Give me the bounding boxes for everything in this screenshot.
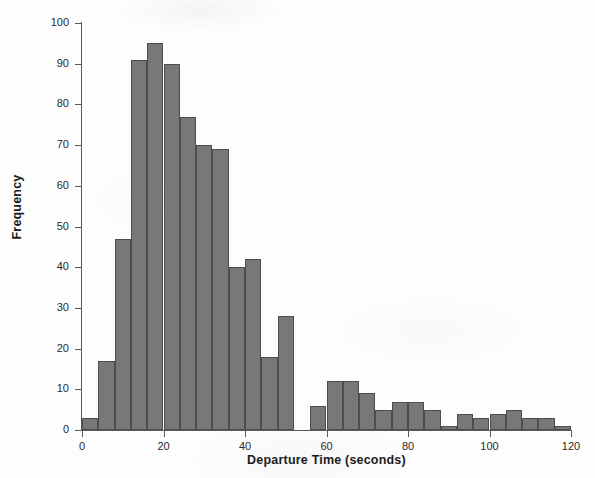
- x-axis-tick-label: 40: [225, 440, 265, 452]
- x-axis-tick: [164, 431, 165, 437]
- histogram-bar: [457, 414, 473, 430]
- histogram-bar: [522, 418, 538, 430]
- x-axis-tick: [82, 431, 83, 437]
- y-axis-tick: [75, 430, 81, 431]
- histogram-bar: [82, 418, 98, 430]
- y-axis-tick: [75, 23, 81, 24]
- y-axis-tick-label: 20: [29, 343, 69, 354]
- y-axis-line: [81, 22, 82, 431]
- x-axis-tick-label: 120: [551, 440, 591, 452]
- histogram-bar: [229, 267, 245, 430]
- histogram-bar: [98, 361, 114, 430]
- y-axis-tick: [75, 267, 81, 268]
- y-axis-tick: [75, 227, 81, 228]
- histogram-figure: 0102030405060708090100 020406080100120 D…: [0, 0, 595, 478]
- histogram-bar: [245, 259, 261, 430]
- histogram-bar: [164, 64, 180, 430]
- histogram-bar: [180, 117, 196, 430]
- histogram-bar: [473, 418, 489, 430]
- histogram-bar: [506, 410, 522, 430]
- histogram-bar: [392, 402, 408, 430]
- y-axis-tick: [75, 389, 81, 390]
- x-axis-tick: [490, 431, 491, 437]
- x-axis-tick-label: 100: [470, 440, 510, 452]
- y-axis-tick-label: 60: [29, 180, 69, 191]
- y-axis-tick-label: 100: [29, 17, 69, 28]
- y-axis-tick: [75, 186, 81, 187]
- histogram-bar: [196, 145, 212, 430]
- y-axis-tick: [75, 349, 81, 350]
- histogram-bar: [343, 381, 359, 430]
- x-axis-tick-label: 60: [307, 440, 347, 452]
- plot-area: [82, 23, 571, 430]
- x-axis-tick: [327, 431, 328, 437]
- y-axis-tick: [75, 145, 81, 146]
- y-axis-tick: [75, 64, 81, 65]
- y-axis-tick-label: 50: [29, 221, 69, 232]
- histogram-bar: [359, 393, 375, 430]
- histogram-bar: [408, 402, 424, 430]
- y-axis-tick: [75, 104, 81, 105]
- histogram-bar: [212, 149, 228, 430]
- y-axis-tick-label: 30: [29, 302, 69, 313]
- histogram-bar: [310, 406, 326, 430]
- histogram-bar: [375, 410, 391, 430]
- x-axis-tick: [571, 431, 572, 437]
- x-axis-tick-label: 20: [144, 440, 184, 452]
- y-axis-tick-label: 10: [29, 383, 69, 394]
- histogram-bar: [424, 410, 440, 430]
- y-axis-tick-label: 90: [29, 58, 69, 69]
- histogram-bar: [115, 239, 131, 430]
- histogram-bar: [490, 414, 506, 430]
- histogram-bar: [131, 60, 147, 430]
- histogram-bar: [278, 316, 294, 430]
- histogram-bar: [261, 357, 277, 430]
- y-axis-tick-label: 70: [29, 139, 69, 150]
- y-axis-tick-label: 0: [29, 424, 69, 435]
- x-axis-tick-label: 0: [62, 440, 102, 452]
- histogram-bar: [538, 418, 554, 430]
- y-axis-title: Frequency: [10, 137, 24, 277]
- x-axis-tick: [408, 431, 409, 437]
- x-axis-title: Departure Time (seconds): [82, 453, 571, 467]
- x-axis-tick: [245, 431, 246, 437]
- histogram-bar: [327, 381, 343, 430]
- y-axis-tick-label: 40: [29, 261, 69, 272]
- x-axis-tick-label: 80: [388, 440, 428, 452]
- histogram-bar: [147, 43, 163, 430]
- y-axis-tick-label: 80: [29, 98, 69, 109]
- y-axis-tick: [75, 308, 81, 309]
